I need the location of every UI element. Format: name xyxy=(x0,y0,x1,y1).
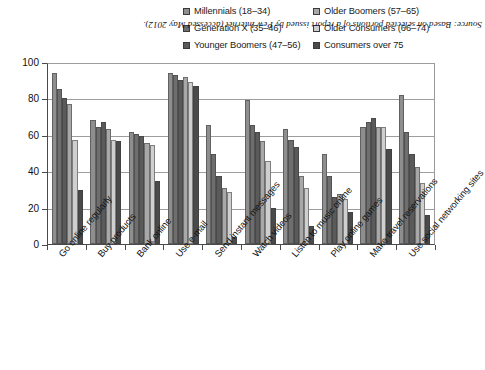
y-tick-label: 40 xyxy=(28,167,39,177)
y-tick-label: 60 xyxy=(28,131,39,141)
x-tick-mark xyxy=(47,245,48,250)
legend-item-label: Younger Boomers (47–56) xyxy=(194,41,300,50)
legend-item-label: Millennials (18–34) xyxy=(194,7,270,16)
y-tick-label: 80 xyxy=(28,94,39,104)
legend-item[interactable]: Younger Boomers (47–56) xyxy=(183,41,313,50)
legend-item[interactable]: Millennials (18–34) xyxy=(183,7,313,16)
legend-item[interactable]: Older Boomers (57–65) xyxy=(313,7,441,16)
x-tick-mark xyxy=(163,245,164,250)
legend-swatch-icon xyxy=(183,42,190,49)
legend-swatch-icon xyxy=(313,42,320,49)
x-tick-mark xyxy=(280,245,281,250)
x-tick-mark xyxy=(435,245,436,250)
bar-group xyxy=(202,64,241,244)
x-tick-mark xyxy=(125,245,126,250)
legend-item-label: Consumers over 75 xyxy=(324,41,403,50)
source-note: Source: Based on selected portions of a … xyxy=(143,20,482,30)
x-tick-mark xyxy=(396,245,397,250)
y-axis: 020406080100 xyxy=(0,63,47,245)
bar-group xyxy=(164,64,203,244)
y-tick-label: 0 xyxy=(33,240,39,250)
legend-swatch-icon xyxy=(313,8,320,15)
x-tick-mark xyxy=(357,245,358,250)
bar-group xyxy=(48,64,87,244)
x-tick-mark xyxy=(241,245,242,250)
x-tick-mark xyxy=(319,245,320,250)
y-tick-label: 100 xyxy=(22,58,39,68)
legend-item[interactable]: Consumers over 75 xyxy=(313,41,441,50)
legend-swatch-icon xyxy=(183,8,190,15)
y-tick-label: 20 xyxy=(28,204,39,214)
x-tick-mark xyxy=(202,245,203,250)
legend-item-label: Older Boomers (57–65) xyxy=(324,7,419,16)
x-tick-mark xyxy=(86,245,87,250)
